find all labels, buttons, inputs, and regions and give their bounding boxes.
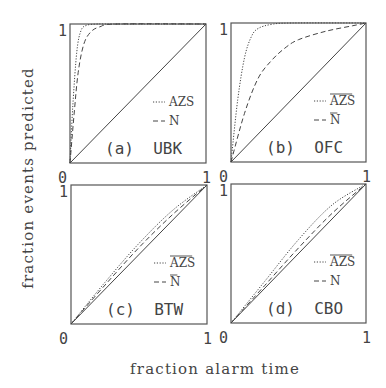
legend-label-azs: AZS [329,94,355,108]
y-tick-1: 1 [58,22,67,40]
roc-figure: 011AZSN(a) UBK011AZSN(b) OFC011AZSN(c) B… [0,0,386,388]
x-tick-0: 0 [219,329,228,347]
panel-title: (b) OFC [266,138,343,157]
y-axis-label: fraction events predicted [19,67,37,289]
legend-label-azs: AZS [329,255,355,269]
panel-title: (c) BTW [106,300,183,319]
panel-a: 011AZSN(a) UBK [58,22,211,187]
x-tick-1: 1 [203,330,212,348]
x-tick-1: 1 [202,169,211,187]
legend-label-n: N [170,275,181,289]
x-axis-label: fraction alarm time [130,360,300,378]
panel-title: (d) CBO [266,299,343,318]
y-tick-1: 1 [219,21,228,39]
x-tick-1: 1 [362,329,371,347]
y-tick-1: 1 [219,182,228,200]
legend-label-azs: AZS [168,95,194,109]
legend-label-n: N [169,114,180,128]
legend-label-n: N [330,113,341,127]
legend-label-azs: AZS [169,256,195,270]
panel-b: 011AZSN(b) OFC [219,21,371,186]
x-tick-0: 0 [59,330,68,348]
legend-label-n: N [330,274,341,288]
panel-title: (a) UBK [105,139,182,158]
y-tick-1: 1 [59,183,68,201]
panel-d: 011AZSN(d) CBO [219,182,371,347]
x-tick-1: 1 [362,168,371,186]
panel-c: 011AZSN(c) BTW [59,183,212,348]
